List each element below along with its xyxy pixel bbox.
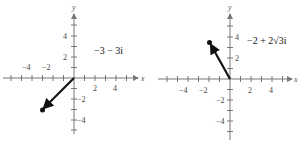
x-tick-label: 2 (93, 84, 97, 93)
y-tick-label: 2 (235, 54, 239, 63)
vector-arrow (211, 45, 230, 79)
y-axis-label: y (71, 3, 76, 12)
complex-plane-figures: x y −4 −2 2 4 4 2 −2 −4 −3 − 3i x y −4 −… (0, 0, 298, 144)
right-plot: x y −4 −2 2 4 4 2 −2 −4 −2 + 2√3i (158, 3, 298, 140)
point-marker (207, 40, 212, 45)
vector-arrow (44, 78, 74, 108)
x-tick-label: −4 (179, 86, 188, 95)
x-tick-label: 4 (113, 84, 117, 93)
complex-number-label: −2 + 2√3i (247, 35, 287, 46)
x-tick-label: −2 (42, 63, 51, 72)
x-tick-label: 2 (248, 86, 252, 95)
y-tick-label: −2 (77, 95, 86, 104)
x-tick-label: −2 (199, 86, 208, 95)
x-tick-label: −4 (22, 63, 31, 72)
left-plot: x y −4 −2 2 4 4 2 −2 −4 −3 − 3i (3, 3, 145, 134)
complex-number-label: −3 − 3i (94, 45, 123, 56)
x-axis-label: x (140, 74, 145, 83)
y-tick-label: −4 (77, 116, 86, 125)
y-tick-label: 2 (63, 53, 67, 62)
y-tick-label: −4 (216, 117, 225, 126)
point-marker (40, 108, 45, 113)
y-tick-label: 4 (63, 32, 67, 41)
y-axis-label: y (227, 3, 232, 12)
y-tick-label: 4 (235, 33, 239, 42)
x-tick-label: 4 (269, 86, 273, 95)
y-tick-label: −2 (216, 96, 225, 105)
x-axis-label: x (293, 75, 298, 84)
